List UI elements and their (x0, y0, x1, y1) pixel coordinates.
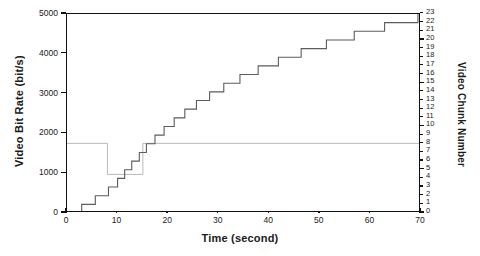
x-tick-label: 60 (349, 215, 389, 225)
y-tick-right (420, 108, 423, 109)
y-tick-right-label: 10 (426, 120, 442, 128)
y-tick-right (420, 73, 423, 74)
y-axis-right-title: Video Chunk Number (452, 10, 470, 220)
y-tick-left-label: 2000 (18, 127, 58, 137)
series-line (67, 143, 420, 174)
y-tick-left-label: 3000 (18, 88, 58, 98)
y-axis-left-title: Video Bit Rate (bit/s) (10, 0, 28, 222)
y-tick-right (420, 82, 424, 83)
plot-area (66, 13, 420, 212)
y-tick-right-label: 12 (426, 103, 442, 111)
chart-figure: Video Bit Rate (bit/s) Video Chunk Numbe… (0, 0, 480, 256)
plot-lines (67, 14, 420, 212)
x-tick-label: 0 (46, 215, 86, 225)
y-tick-right-label: 23 (426, 8, 442, 16)
y-tick-right-label: 21 (426, 25, 442, 33)
y-tick-right (420, 47, 423, 48)
y-tick-right-label: 0 (426, 207, 442, 215)
y-tick-right-label: 20 (426, 34, 442, 42)
y-tick-right (420, 38, 424, 39)
y-tick-right (420, 134, 423, 135)
y-tick-right (420, 30, 423, 31)
x-tick-label: 50 (299, 215, 339, 225)
y-tick-right (420, 56, 423, 57)
y-tick-right-label: 8 (426, 138, 442, 146)
y-tick-right (420, 203, 423, 204)
y-tick-right (420, 142, 423, 143)
y-tick-right (420, 194, 423, 195)
y-tick-left-label: 5000 (18, 8, 58, 18)
y-tick-right-label: 17 (426, 60, 442, 68)
y-tick-right-label: 3 (426, 181, 442, 189)
y-tick-right (420, 185, 423, 186)
y-tick-right-label: 11 (426, 112, 442, 120)
y-tick-right-label: 5 (426, 164, 442, 172)
y-tick-right-label: 7 (426, 146, 442, 154)
y-tick-right-label: 4 (426, 172, 442, 180)
series-svg (67, 14, 420, 212)
y-tick-right-label: 1 (426, 198, 442, 206)
x-tick-label: 10 (97, 215, 137, 225)
y-tick-right-label: 19 (426, 43, 442, 51)
y-tick-right-label: 6 (426, 155, 442, 163)
y-tick-right (420, 21, 423, 22)
y-tick-right (420, 168, 424, 169)
y-tick-right (420, 116, 423, 117)
y-tick-right (420, 64, 423, 65)
y-tick-right-label: 13 (426, 95, 442, 103)
y-tick-right (420, 159, 423, 160)
y-tick-right-label: 15 (426, 77, 442, 85)
x-axis-title: Time (second) (0, 232, 480, 244)
y-tick-right-label: 16 (426, 69, 442, 77)
x-tick-label: 70 (400, 215, 440, 225)
y-tick-right (420, 99, 423, 100)
y-tick-right-label: 14 (426, 86, 442, 94)
y-tick-right (420, 177, 423, 178)
x-tick-label: 40 (248, 215, 288, 225)
series-line (82, 14, 418, 212)
y-tick-left-label: 1000 (18, 167, 58, 177)
y-tick-right (420, 125, 424, 126)
y-tick-right-label: 2 (426, 190, 442, 198)
y-tick-right-label: 18 (426, 51, 442, 59)
x-tick-label: 20 (147, 215, 187, 225)
y-tick-right-label: 22 (426, 17, 442, 25)
y-tick-right (420, 90, 423, 91)
y-tick-right-label: 9 (426, 129, 442, 137)
x-tick-label: 30 (198, 215, 238, 225)
y-tick-left-label: 4000 (18, 48, 58, 58)
y-tick-right (420, 12, 423, 13)
y-tick-right (420, 151, 423, 152)
